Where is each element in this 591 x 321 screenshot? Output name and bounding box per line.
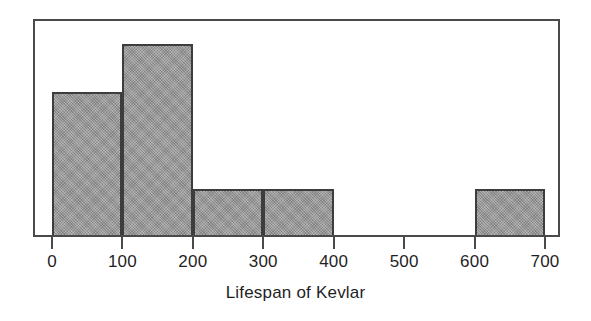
x-axis-line (33, 235, 560, 237)
x-axis-tick-label: 0 (22, 252, 82, 272)
x-axis-tick-mark (121, 237, 123, 249)
x-axis-tick-label: 700 (515, 252, 575, 272)
x-axis-tick-mark (262, 237, 264, 249)
histogram-bar (193, 189, 263, 237)
histogram-bar (52, 92, 122, 237)
x-axis-tick-label: 500 (374, 252, 434, 272)
x-axis-tick-mark (474, 237, 476, 249)
x-axis-tick-mark (544, 237, 546, 249)
x-axis-tick-label: 100 (92, 252, 152, 272)
histogram-figure: Lifespan of Kevlar 010020030040050060070… (0, 0, 591, 321)
histogram-bar (122, 44, 192, 237)
x-axis-tick-mark (51, 237, 53, 249)
x-axis-title: Lifespan of Kevlar (0, 283, 591, 303)
x-axis-tick-mark (192, 237, 194, 249)
histogram-bar (475, 189, 545, 237)
histogram-bar (263, 189, 333, 237)
x-axis-tick-label: 600 (445, 252, 505, 272)
x-axis-tick-label: 300 (233, 252, 293, 272)
x-axis-tick-label: 400 (304, 252, 364, 272)
x-axis-tick-label: 200 (163, 252, 223, 272)
x-axis-tick-mark (403, 237, 405, 249)
x-axis-tick-mark (333, 237, 335, 249)
